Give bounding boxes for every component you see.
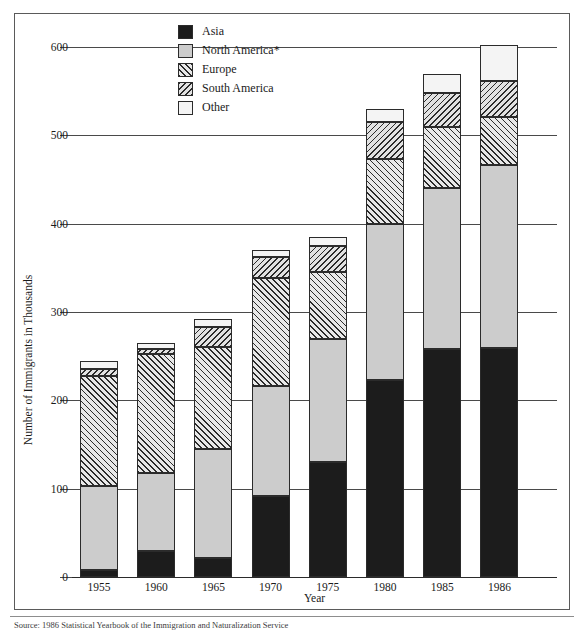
bar-segment-europe-1986[interactable] xyxy=(480,117,518,166)
legend-label-asia: Asia xyxy=(202,24,224,39)
x-axis-line xyxy=(72,577,557,578)
bar-segment-other-1980[interactable] xyxy=(366,109,404,122)
bar-segment-north-america-1986[interactable] xyxy=(480,165,518,348)
bar-segment-europe-1960[interactable] xyxy=(137,354,175,472)
bar-segment-north-america-1970[interactable] xyxy=(252,386,290,496)
legend-item-north-america[interactable]: North America* xyxy=(178,41,280,60)
bar-segment-europe-1975[interactable] xyxy=(309,272,347,338)
bar-segment-asia-1955[interactable] xyxy=(80,570,118,577)
bar-1986[interactable] xyxy=(480,47,518,577)
bar-segment-asia-1986[interactable] xyxy=(480,348,518,577)
bar-segment-other-1970[interactable] xyxy=(252,250,290,257)
bar-1955[interactable] xyxy=(80,47,118,577)
bar-segment-south-america-1986[interactable] xyxy=(480,81,518,116)
legend-label-south-america: South America xyxy=(202,81,274,96)
bar-segment-europe-1965[interactable] xyxy=(194,347,232,449)
y-axis-title: Number of Immigrants in Thousands xyxy=(20,250,36,470)
plot-area: 0100200300400500600 19551960196519701975… xyxy=(72,47,557,577)
legend-item-europe[interactable]: Europe xyxy=(178,60,280,79)
bar-segment-north-america-1975[interactable] xyxy=(309,339,347,463)
immigration-stacked-bar-chart: Number of Immigrants in Thousands 010020… xyxy=(0,0,584,630)
bar-1975[interactable] xyxy=(309,47,347,577)
footer-divider xyxy=(10,616,574,617)
bar-segment-south-america-1970[interactable] xyxy=(252,257,290,278)
bar-segment-north-america-1980[interactable] xyxy=(366,224,404,380)
y-axis-title-label: Number of Immigrants in Thousands xyxy=(22,275,34,445)
legend-swatch-icon-europe xyxy=(178,63,193,77)
bar-1985[interactable] xyxy=(423,47,461,577)
bar-segment-other-1960[interactable] xyxy=(137,343,175,349)
bar-segment-other-1975[interactable] xyxy=(309,237,347,246)
bar-segment-other-1985[interactable] xyxy=(423,74,461,93)
bar-segment-south-america-1985[interactable] xyxy=(423,93,461,127)
bar-segment-europe-1980[interactable] xyxy=(366,159,404,223)
legend-swatch-icon-south-america xyxy=(178,82,193,96)
bar-segment-asia-1965[interactable] xyxy=(194,558,232,577)
legend-label-north-america: North America* xyxy=(202,43,280,58)
bar-segment-asia-1985[interactable] xyxy=(423,349,461,577)
bar-1965[interactable] xyxy=(194,47,232,577)
bar-segment-asia-1970[interactable] xyxy=(252,496,290,577)
legend-label-other: Other xyxy=(202,100,229,115)
source-note: Source: 1986 Statistical Yearbook of the… xyxy=(14,620,288,630)
y-tick-label-400: 400 xyxy=(22,224,68,225)
y-tick-label-300: 300 xyxy=(22,312,68,313)
bar-segment-europe-1970[interactable] xyxy=(252,278,290,386)
bar-segment-asia-1980[interactable] xyxy=(366,380,404,577)
bar-segment-europe-1955[interactable] xyxy=(80,376,118,486)
legend-item-south-america[interactable]: South America xyxy=(178,79,280,98)
bar-segment-asia-1975[interactable] xyxy=(309,462,347,577)
bar-segment-asia-1960[interactable] xyxy=(137,551,175,578)
bar-segment-north-america-1985[interactable] xyxy=(423,188,461,349)
bar-segment-europe-1985[interactable] xyxy=(423,127,461,189)
y-tick-label-100: 100 xyxy=(22,489,68,490)
bar-segment-south-america-1955[interactable] xyxy=(80,369,118,376)
bar-segment-north-america-1960[interactable] xyxy=(137,473,175,551)
bar-1980[interactable] xyxy=(366,47,404,577)
bar-segment-other-1955[interactable] xyxy=(80,361,118,368)
bar-segment-south-america-1975[interactable] xyxy=(309,246,347,273)
bar-segment-south-america-1980[interactable] xyxy=(366,122,404,159)
legend-swatch-icon-asia xyxy=(178,25,193,39)
legend-label-europe: Europe xyxy=(202,62,237,77)
bar-segment-north-america-1955[interactable] xyxy=(80,486,118,570)
legend-swatch-icon-north-america xyxy=(178,44,193,58)
bar-segment-south-america-1965[interactable] xyxy=(194,327,232,347)
y-tick-label-0: 0 xyxy=(22,577,68,578)
y-tick-label-600: 600 xyxy=(22,47,68,48)
bar-1970[interactable] xyxy=(252,47,290,577)
bar-segment-other-1986[interactable] xyxy=(480,45,518,81)
legend-item-other[interactable]: Other xyxy=(178,98,280,117)
x-axis-title-label: Year xyxy=(72,592,557,604)
bar-1960[interactable] xyxy=(137,47,175,577)
legend-swatch-icon-other xyxy=(178,101,193,115)
bar-segment-south-america-1960[interactable] xyxy=(137,349,175,354)
bar-segment-other-1965[interactable] xyxy=(194,319,232,327)
y-tick-label-500: 500 xyxy=(22,135,68,136)
legend-item-asia[interactable]: Asia xyxy=(178,22,280,41)
bar-segment-north-america-1965[interactable] xyxy=(194,449,232,559)
y-tick-label-200: 200 xyxy=(22,400,68,401)
chart-legend: AsiaNorth America*EuropeSouth AmericaOth… xyxy=(178,22,280,117)
